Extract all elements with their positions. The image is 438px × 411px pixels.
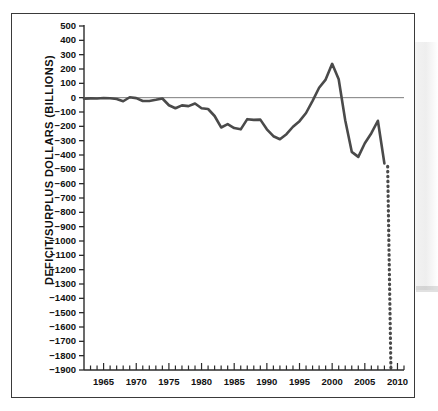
series-projected-deficit	[388, 166, 391, 370]
y-tick-label: 400	[34, 34, 76, 45]
y-tick-label: −800	[34, 206, 76, 217]
x-tick-label: 2010	[377, 376, 417, 387]
y-tick-label: 0	[34, 92, 76, 103]
y-tick-label: −1300	[34, 278, 76, 289]
y-tick-label: −300	[34, 135, 76, 146]
y-tick-label: −1600	[34, 321, 76, 332]
y-tick-label: 100	[34, 77, 76, 88]
y-tick-label: 300	[34, 49, 76, 60]
page-edge-artifact-secondary	[416, 286, 438, 292]
y-tick-label: −400	[34, 149, 76, 160]
y-tick-label: −1200	[34, 264, 76, 275]
y-tick-label: −1700	[34, 335, 76, 346]
y-tick-label: −1500	[34, 307, 76, 318]
y-tick-label: 200	[34, 63, 76, 74]
y-tick-label: −900	[34, 221, 76, 232]
y-tick-label: −1800	[34, 350, 76, 361]
y-tick-label: −700	[34, 192, 76, 203]
y-tick-label: −1000	[34, 235, 76, 246]
chart-frame: DEFICIT/SURPLUS DOLLARS (BILLIONS) 50040…	[11, 13, 415, 398]
y-tick-label: −600	[34, 178, 76, 189]
y-tick-label: 500	[34, 20, 76, 31]
y-tick-label: −100	[34, 106, 76, 117]
y-tick-label: −500	[34, 163, 76, 174]
y-tick-label: −200	[34, 120, 76, 131]
y-tick-label: −1400	[34, 292, 76, 303]
series-actual-deficit-surplus	[84, 64, 384, 164]
y-tick-label: −1100	[34, 249, 76, 260]
figure-page: DEFICIT/SURPLUS DOLLARS (BILLIONS) 50040…	[0, 0, 438, 411]
y-tick-label: −1900	[34, 364, 76, 375]
